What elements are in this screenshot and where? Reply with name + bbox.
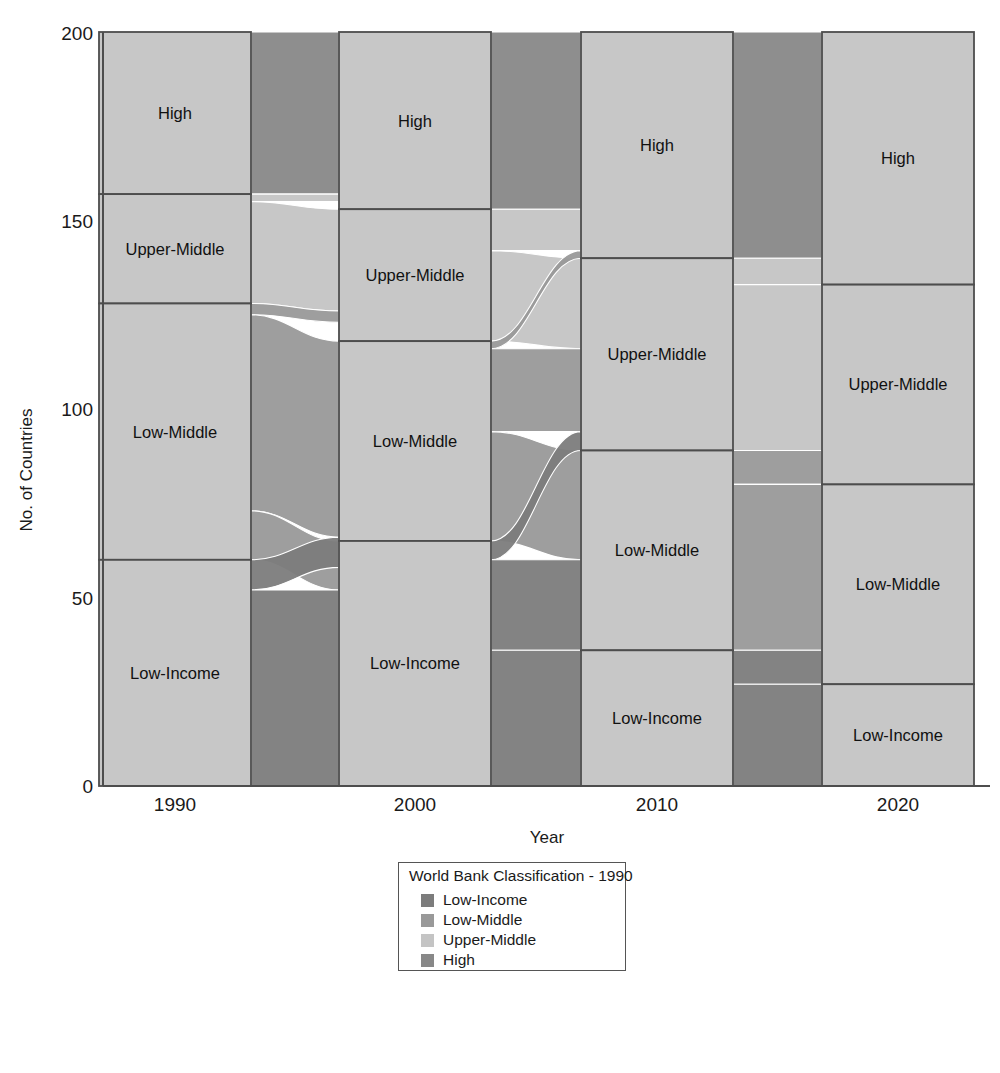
flow-ribbon[interactable]: [491, 209, 581, 250]
legend: World Bank Classification - 1990 Low-Inc…: [398, 862, 626, 971]
alluvial-svg: 200 150 100 50 0 No. of Countries 1990 2…: [0, 0, 1000, 845]
stratum-label: High: [640, 136, 674, 154]
flow-ribbon[interactable]: [733, 32, 822, 258]
x-tick-2000: 2000: [394, 794, 436, 815]
flow-ribbon[interactable]: [491, 349, 581, 432]
flow-ribbon[interactable]: [733, 484, 822, 650]
flow-ribbon[interactable]: [733, 258, 822, 284]
legend-label-high: High: [443, 951, 475, 969]
legend-label-upper-middle: Upper-Middle: [443, 931, 536, 949]
stratum-label: High: [398, 112, 432, 130]
flow-ribbon[interactable]: [251, 590, 339, 786]
flow-ribbons-group: [251, 32, 822, 786]
legend-title: World Bank Classification - 1990: [399, 863, 625, 890]
legend-item-low-income[interactable]: Low-Income: [399, 890, 625, 910]
legend-item-low-middle[interactable]: Low-Middle: [399, 910, 625, 930]
flow-ribbon[interactable]: [733, 450, 822, 484]
flow-ribbon[interactable]: [733, 684, 822, 786]
stratum-label: Low-Income: [130, 664, 220, 682]
x-axis-title: Year: [530, 828, 565, 845]
legend-swatch-high: [421, 954, 434, 967]
stratum-label: High: [881, 149, 915, 167]
y-tick-200: 200: [61, 23, 93, 44]
flow-ribbon[interactable]: [733, 650, 822, 684]
stratum-label: High: [158, 104, 192, 122]
x-tick-1990: 1990: [154, 794, 196, 815]
legend-swatch-low-income: [421, 894, 434, 907]
y-axis-title: No. of Countries: [17, 409, 36, 532]
flow-ribbon[interactable]: [251, 32, 339, 194]
legend-item-high[interactable]: High: [399, 950, 625, 970]
y-tick-0: 0: [82, 776, 93, 797]
stratum-label: Low-Income: [853, 726, 943, 744]
stratum-label: Low-Middle: [615, 541, 699, 559]
x-tick-2010: 2010: [636, 794, 678, 815]
y-tick-100: 100: [61, 399, 93, 420]
flow-ribbon[interactable]: [491, 650, 581, 786]
y-tick-150: 150: [61, 211, 93, 232]
legend-item-upper-middle[interactable]: Upper-Middle: [399, 930, 625, 950]
x-tick-2020: 2020: [877, 794, 919, 815]
stratum-label: Upper-Middle: [607, 345, 706, 363]
flow-ribbon[interactable]: [251, 194, 339, 202]
stratum-label: Upper-Middle: [125, 240, 224, 258]
flow-ribbon[interactable]: [733, 285, 822, 451]
legend-label-low-middle: Low-Middle: [443, 911, 522, 929]
legend-swatch-low-middle: [421, 914, 434, 927]
stratum-label: Low-Middle: [856, 575, 940, 593]
stratum-label: Upper-Middle: [848, 375, 947, 393]
chart-plot-area: 200 150 100 50 0 No. of Countries 1990 2…: [0, 0, 1000, 845]
flow-ribbon[interactable]: [251, 202, 339, 311]
flow-ribbon[interactable]: [491, 32, 581, 209]
stratum-label: Upper-Middle: [365, 266, 464, 284]
flow-ribbon[interactable]: [251, 315, 339, 537]
stratum-label: Low-Income: [612, 709, 702, 727]
stratum-label: Low-Middle: [133, 423, 217, 441]
flow-ribbon[interactable]: [491, 560, 581, 650]
legend-swatch-upper-middle: [421, 934, 434, 947]
alluvial-chart-page: 200 150 100 50 0 No. of Countries 1990 2…: [0, 0, 1000, 1073]
legend-label-low-income: Low-Income: [443, 891, 527, 909]
stratum-label: Low-Income: [370, 654, 460, 672]
y-tick-50: 50: [72, 588, 93, 609]
stratum-label: Low-Middle: [373, 432, 457, 450]
